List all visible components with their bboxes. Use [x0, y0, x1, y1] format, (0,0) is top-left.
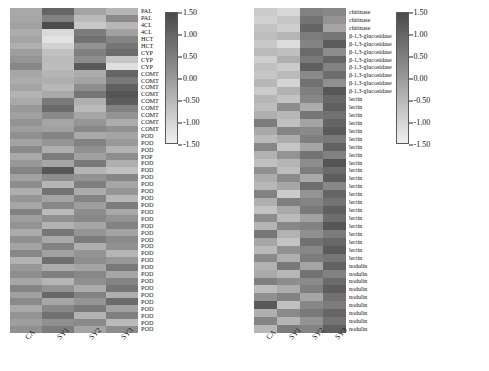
heatmap-cell [42, 119, 74, 126]
heatmap-cell [42, 8, 74, 15]
colorbar-right: 1.501.000.500.00-0.50-1.00-1.50 [396, 12, 443, 144]
heatmap-cell [106, 209, 138, 216]
heatmap-cell [277, 270, 300, 278]
heatmap-row-label: chitinase [349, 16, 392, 24]
heatmap-cell [74, 264, 106, 271]
figure-container: CASY1SY2SY3 PALPAL4CL4CLHCTHCTCYPCYPCYPC… [0, 0, 489, 371]
x-axis-left: CASY1SY2SY3 [10, 333, 138, 367]
heatmap-row-label: β-1,3-glucosidase [349, 40, 392, 48]
heatmap-cell [254, 8, 277, 16]
heatmap-cell [300, 103, 323, 111]
heatmap-cell [323, 317, 346, 325]
heatmap-cell [300, 254, 323, 262]
heatmap-cell [323, 278, 346, 286]
heatmap-cell [277, 95, 300, 103]
colorbar-tick-label: -0.50 [409, 96, 431, 105]
colorbar-ticks-right: 1.501.000.500.00-0.50-1.00-1.50 [409, 12, 443, 144]
heatmap-cell [10, 188, 42, 195]
heatmap-cell [300, 270, 323, 278]
heatmap-cell [106, 84, 138, 91]
heatmap-cell [254, 127, 277, 135]
heatmap-cell [254, 190, 277, 198]
heatmap-cell [254, 301, 277, 309]
heatmap-cell [277, 8, 300, 16]
heatmap-row-label: β-1,3-glucosidase [349, 87, 392, 95]
heatmap-cell [323, 32, 346, 40]
heatmap-row-label: lectin [349, 111, 392, 119]
heatmap-cell [10, 77, 42, 84]
heatmap-cell [42, 63, 74, 70]
heatmap-cell [106, 22, 138, 29]
heatmap-grid-right [254, 8, 346, 333]
heatmap-cell [323, 198, 346, 206]
heatmap-cell [42, 236, 74, 243]
heatmap-row-label: β-1,3-glucosidase [349, 32, 392, 40]
heatmap-cell [277, 103, 300, 111]
heatmap-cell [74, 132, 106, 139]
heatmap-cell [277, 16, 300, 24]
heatmap-cell [106, 119, 138, 126]
heatmap-cell [10, 132, 42, 139]
heatmap-cell [254, 143, 277, 151]
heatmap-cell [254, 119, 277, 127]
heatmap-cell [106, 139, 138, 146]
heatmap-row-label: nodulin [349, 301, 392, 309]
heatmap-cell [323, 79, 346, 87]
heatmap-cell [323, 214, 346, 222]
heatmap-cell [254, 111, 277, 119]
heatmap-cell [106, 319, 138, 326]
heatmap-cell [42, 257, 74, 264]
heatmap-cell [300, 87, 323, 95]
heatmap-cell [10, 15, 42, 22]
heatmap-cell [74, 312, 106, 319]
heatmap-cell [277, 309, 300, 317]
heatmap-cell [74, 305, 106, 312]
heatmap-cell [106, 8, 138, 15]
heatmap-row-label: lectin [349, 159, 392, 167]
heatmap-cell [300, 309, 323, 317]
heatmap-cell [74, 243, 106, 250]
heatmap-cell [277, 87, 300, 95]
heatmap-cell [300, 16, 323, 24]
heatmap-row-label: nodulin [349, 278, 392, 286]
heatmap-cell [10, 153, 42, 160]
heatmap-cell [42, 278, 74, 285]
heatmap-cell [106, 153, 138, 160]
heatmap-cell [106, 243, 138, 250]
heatmap-cell [106, 160, 138, 167]
colorbar-tick-label: 1.00 [178, 30, 197, 39]
heatmap-cell [254, 135, 277, 143]
heatmap-cell [323, 56, 346, 64]
heatmap-cell [10, 181, 42, 188]
heatmap-cell [106, 112, 138, 119]
heatmap-cell [277, 56, 300, 64]
heatmap-cell [10, 36, 42, 43]
heatmap-cell [106, 264, 138, 271]
heatmap-cell [106, 29, 138, 36]
heatmap-cell [254, 278, 277, 286]
heatmap-cell [323, 119, 346, 127]
heatmap-cell [74, 139, 106, 146]
heatmap-cell [300, 182, 323, 190]
colorbar-tick-label: 0.00 [409, 74, 428, 83]
heatmap-cell [277, 182, 300, 190]
heatmap-cell [106, 181, 138, 188]
heatmap-cell [42, 209, 74, 216]
heatmap-cell [300, 301, 323, 309]
heatmap-cell [254, 270, 277, 278]
heatmap-row-label: lectin [349, 198, 392, 206]
heatmap-cell [106, 298, 138, 305]
heatmap-cell [106, 77, 138, 84]
heatmap-cell [254, 309, 277, 317]
heatmap-cell [300, 159, 323, 167]
heatmap-row-label: β-1,3-glucosidase [349, 71, 392, 79]
heatmap-cell [300, 293, 323, 301]
heatmap-cell [74, 43, 106, 50]
heatmap-cell [74, 112, 106, 119]
heatmap-cell [42, 312, 74, 319]
heatmap-cell [42, 167, 74, 174]
heatmap-cell [106, 222, 138, 229]
heatmap-row-label: β-1,3-glucosidase [349, 56, 392, 64]
heatmap-cell [254, 206, 277, 214]
heatmap-cell [74, 215, 106, 222]
